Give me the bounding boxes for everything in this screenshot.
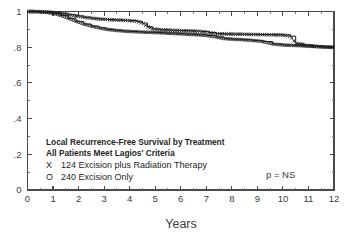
x-tick-label: 7 [204, 193, 209, 204]
y-tick-label: .2 [14, 149, 22, 160]
y-tick-label: .6 [14, 77, 22, 88]
legend-title-line1: Local Recurrence-Free Survival by Treatm… [46, 137, 225, 147]
y-tick-label: .8 [14, 42, 22, 53]
x-tick-label: 9 [255, 193, 260, 204]
y-tick-label: 0 [16, 184, 21, 195]
x-tick-label: 11 [304, 193, 314, 204]
legend-symbol-x: X [46, 160, 52, 170]
x-axis-title: Years [165, 217, 197, 231]
y-tick-label: .4 [14, 113, 22, 124]
chart-page: 0123456789101112 0.2.4.6.81 Years Local … [0, 0, 349, 238]
y-tick-labels: 0.2.4.6.81 [14, 6, 22, 196]
survival-curve-chart: 0123456789101112 0.2.4.6.81 Years Local … [0, 0, 349, 238]
legend-label-radiation: 124 Excision plus Radiation Therapy [61, 160, 207, 170]
legend-label-excision: 240 Excision Only [61, 172, 134, 182]
x-tick-label: 2 [76, 193, 81, 204]
x-tick-label: 6 [178, 193, 183, 204]
y-tick-label: 1 [16, 6, 21, 17]
legend-symbol-o: O [46, 172, 53, 182]
x-tick-label: 8 [229, 193, 234, 204]
x-tick-label: 12 [329, 193, 340, 204]
x-tick-labels: 0123456789101112 [25, 193, 339, 204]
p-value-annotation: p = NS [266, 169, 295, 180]
x-tick-label: 0 [25, 193, 30, 204]
x-tick-label: 1 [50, 193, 55, 204]
x-tick-label: 10 [278, 193, 289, 204]
x-tick-label: 5 [153, 193, 158, 204]
x-tick-label: 4 [127, 193, 132, 204]
legend-title-line2: All Patients Meet Lagios' Criteria [46, 148, 175, 158]
x-tick-label: 3 [101, 193, 106, 204]
